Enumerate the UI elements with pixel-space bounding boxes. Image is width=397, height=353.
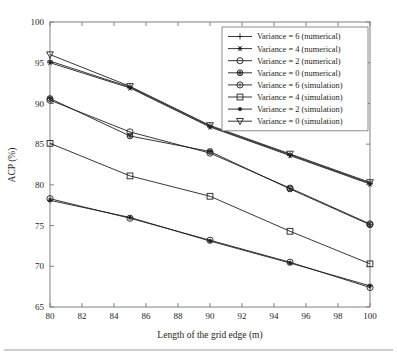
acp-vs-grid-edge-line-chart: 80828486889092949698100 6570758085909510… — [0, 0, 397, 353]
chart-legend[interactable]: Variance = 6 (numerical)Variance = 4 (nu… — [222, 27, 368, 131]
series-6-marker-1 — [129, 216, 132, 219]
y-tick-label-75: 75 — [35, 221, 45, 231]
legend-label-0: Variance = 6 (numerical) — [257, 32, 341, 41]
x-tick-label-82: 82 — [78, 311, 87, 321]
legend-background — [222, 27, 368, 131]
x-tick-label-100: 100 — [363, 311, 377, 321]
legend-marker-asterisk-small-icon — [239, 108, 242, 111]
y-tick-label-65: 65 — [35, 302, 45, 312]
x-axis-label: Length of the grid edge (m) — [157, 330, 262, 341]
x-tick-label-96: 96 — [302, 311, 312, 321]
y-tick-label-70: 70 — [35, 261, 45, 271]
legend-label-5: Variance = 4 (simulation) — [257, 93, 343, 102]
series-6-marker-3 — [289, 262, 292, 265]
legend-label-3: Variance = 0 (numerical) — [257, 69, 341, 78]
legend-label-1: Variance = 4 (numerical) — [257, 45, 341, 54]
x-tick-label-94: 94 — [270, 311, 280, 321]
chart-figure: 80828486889092949698100 6570758085909510… — [0, 0, 397, 353]
legend-label-2: Variance = 2 (numerical) — [257, 57, 341, 66]
y-tick-label-80: 80 — [35, 180, 45, 190]
legend-label-4: Variance = 6 (simulation) — [257, 81, 343, 90]
y-tick-label-90: 90 — [35, 99, 45, 109]
series-6-marker-2 — [209, 240, 212, 243]
x-tick-label-98: 98 — [334, 311, 344, 321]
x-tick-label-84: 84 — [110, 311, 120, 321]
x-tick-label-92: 92 — [238, 311, 247, 321]
x-tick-label-88: 88 — [174, 311, 184, 321]
x-tick-label-80: 80 — [46, 311, 56, 321]
legend-label-7: Variance = 0 (simulation) — [257, 117, 343, 126]
x-tick-label-86: 86 — [142, 311, 152, 321]
series-6-marker-0 — [49, 199, 52, 202]
y-tick-label-100: 100 — [31, 17, 45, 27]
y-axis-label: ACP (%) — [7, 148, 18, 183]
x-tick-label-90: 90 — [206, 311, 216, 321]
legend-label-6: Variance = 2 (simulation) — [257, 105, 343, 114]
legend-marker-asterisk-icon — [239, 48, 241, 50]
y-tick-label-85: 85 — [35, 139, 45, 149]
series-1-marker-0 — [49, 62, 51, 64]
y-tick-label-95: 95 — [35, 58, 45, 68]
series-6-marker-4 — [369, 285, 372, 288]
